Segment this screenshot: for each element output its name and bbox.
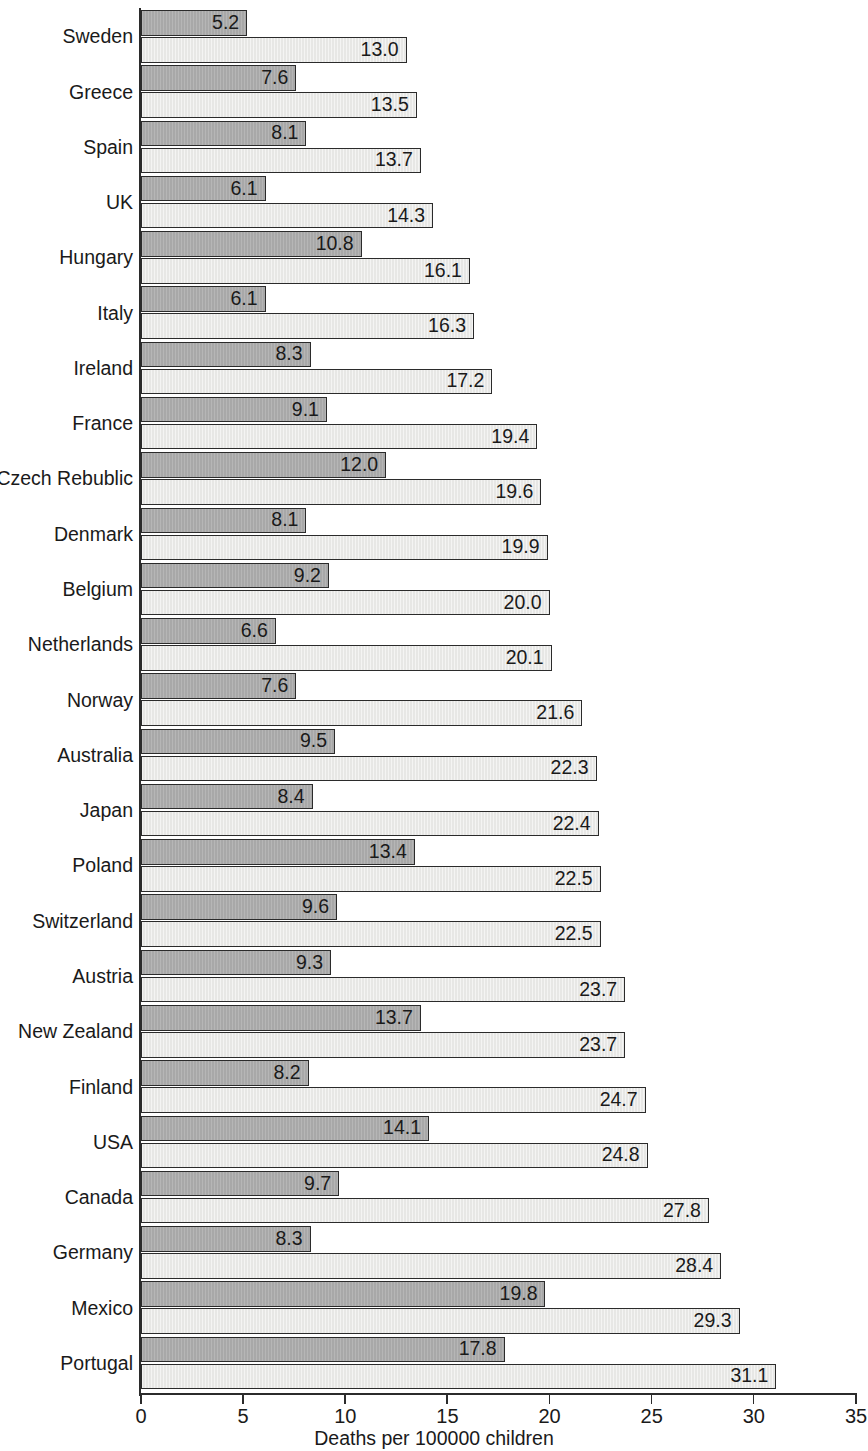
category-label: Ireland [0, 359, 133, 379]
bar-secondary: 21.6 [141, 700, 582, 726]
category-label: USA [0, 1133, 133, 1153]
bar-secondary: 24.7 [141, 1087, 646, 1113]
category-group: Sweden5.213.0 [0, 10, 868, 63]
bar-value-label: 13.7 [375, 151, 413, 171]
bar-value-label: 9.3 [296, 953, 323, 973]
bar-value-label: 20.0 [504, 593, 542, 613]
bar-value-label: 19.9 [502, 538, 540, 558]
bar-value-label: 20.1 [506, 648, 544, 668]
category-label: Portugal [0, 1354, 133, 1374]
bar-value-label: 24.7 [600, 1090, 638, 1110]
bar-secondary: 16.1 [141, 258, 470, 284]
bar-value-label: 8.1 [271, 124, 298, 144]
x-axis-tick-label: 25 [641, 1406, 663, 1426]
bar-value-label: 8.3 [275, 345, 302, 365]
bar-secondary: 20.0 [141, 590, 550, 616]
category-label: Czech Rebublic [0, 469, 133, 489]
category-label: Sweden [0, 27, 133, 47]
category-group: Czech Rebublic12.019.6 [0, 452, 868, 505]
bar-primary: 5.2 [141, 10, 247, 36]
bar-value-label: 6.1 [231, 289, 258, 309]
category-label: Belgium [0, 580, 133, 600]
bar-value-label: 8.1 [271, 511, 298, 531]
bar-secondary: 22.3 [141, 756, 597, 782]
x-axis-tick [549, 1395, 551, 1404]
bar-secondary: 19.6 [141, 479, 541, 505]
bar-primary: 13.4 [141, 839, 415, 865]
bar-value-label: 17.8 [459, 1340, 497, 1360]
bar-value-label: 22.4 [553, 814, 591, 834]
category-label: Norway [0, 691, 133, 711]
bar-value-label: 9.5 [300, 732, 327, 752]
x-axis-tick [242, 1395, 244, 1404]
category-group: Mexico19.829.3 [0, 1281, 868, 1334]
bar-value-label: 10.8 [316, 234, 354, 254]
category-group: USA14.124.8 [0, 1116, 868, 1169]
bar-primary: 9.6 [141, 894, 337, 920]
category-label: Japan [0, 801, 133, 821]
bar-value-label: 22.3 [551, 759, 589, 779]
bar-value-label: 23.7 [579, 1035, 617, 1055]
x-axis-tick [753, 1395, 755, 1404]
x-axis-tick-label: 20 [538, 1406, 560, 1426]
category-group: Norway7.621.6 [0, 673, 868, 726]
x-axis-tick-label: 35 [845, 1406, 867, 1426]
bar-secondary: 16.3 [141, 313, 474, 339]
category-group: France9.119.4 [0, 397, 868, 450]
x-axis-tick [651, 1395, 653, 1404]
category-label: Australia [0, 746, 133, 766]
bar-value-label: 19.8 [500, 1284, 538, 1304]
category-group: Germany8.328.4 [0, 1226, 868, 1279]
category-group: Netherlands6.620.1 [0, 618, 868, 671]
x-axis-tick [855, 1395, 857, 1404]
bar-value-label: 16.3 [428, 316, 466, 336]
bar-value-label: 14.3 [387, 206, 425, 226]
bar-primary: 14.1 [141, 1116, 429, 1142]
category-label: Austria [0, 967, 133, 987]
bar-value-label: 7.6 [261, 68, 288, 88]
y-axis-line [139, 8, 141, 1396]
bar-value-label: 13.7 [375, 1008, 413, 1028]
bar-value-label: 22.5 [555, 924, 593, 944]
bar-secondary: 22.5 [141, 866, 601, 892]
category-label: Netherlands [0, 635, 133, 655]
x-axis-tick [344, 1395, 346, 1404]
x-axis-tick-label: 15 [436, 1406, 458, 1426]
bar-value-label: 14.1 [383, 1119, 421, 1139]
bar-value-label: 22.5 [555, 869, 593, 889]
bar-secondary: 22.4 [141, 811, 599, 837]
bar-value-label: 21.6 [536, 703, 574, 723]
bar-primary: 6.1 [141, 286, 266, 312]
bar-secondary: 19.4 [141, 424, 537, 450]
bar-secondary: 27.8 [141, 1198, 709, 1224]
bar-primary: 6.6 [141, 618, 276, 644]
category-label: New Zealand [0, 1022, 133, 1042]
x-axis-title: Deaths per 100000 children [0, 1429, 868, 1449]
bar-primary: 8.1 [141, 508, 306, 534]
bar-secondary: 28.4 [141, 1253, 721, 1279]
bar-value-label: 16.1 [424, 261, 462, 281]
category-group: Portugal17.831.1 [0, 1337, 868, 1390]
bar-secondary: 17.2 [141, 369, 492, 395]
category-label: Finland [0, 1078, 133, 1098]
category-group: Greece7.613.5 [0, 65, 868, 118]
category-label: Canada [0, 1188, 133, 1208]
bar-secondary: 20.1 [141, 645, 552, 671]
x-axis-tick-label: 30 [743, 1406, 765, 1426]
bar-primary: 8.3 [141, 1226, 311, 1252]
bar-primary: 7.6 [141, 65, 296, 91]
bar-primary: 9.7 [141, 1171, 339, 1197]
bar-value-label: 24.8 [602, 1146, 640, 1166]
bar-value-label: 19.6 [495, 482, 533, 502]
x-axis-line [139, 1393, 857, 1395]
bar-primary: 9.3 [141, 950, 331, 976]
bar-primary: 10.8 [141, 231, 362, 257]
bar-primary: 8.2 [141, 1060, 309, 1086]
category-label: France [0, 414, 133, 434]
category-group: Finland8.224.7 [0, 1060, 868, 1113]
category-label: Denmark [0, 525, 133, 545]
category-label: Mexico [0, 1299, 133, 1319]
x-axis-tick [446, 1395, 448, 1404]
bar-secondary: 31.1 [141, 1364, 776, 1390]
bar-value-label: 9.6 [302, 897, 329, 917]
